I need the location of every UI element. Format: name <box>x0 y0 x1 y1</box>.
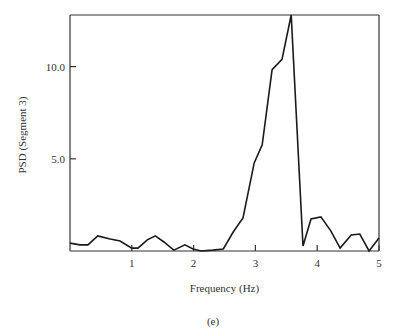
x-tick-label: 1 <box>129 257 135 269</box>
x-tick-label: 5 <box>376 257 382 269</box>
x-tick-label: 4 <box>314 257 320 269</box>
psd-chart: 12345 5.010.0 Frequency (Hz) PSD (Segmen… <box>0 0 398 336</box>
y-tick-label: 10.0 <box>46 61 66 73</box>
x-tick-label: 2 <box>191 257 197 269</box>
y-axis-label: PSD (Segment 3) <box>16 96 29 173</box>
figure-caption: (e) <box>207 315 220 328</box>
x-tick-label: 3 <box>253 257 259 269</box>
x-ticks: 12345 <box>129 245 382 269</box>
y-tick-label: 5.0 <box>51 153 65 165</box>
psd-series-line <box>70 15 379 251</box>
x-axis-label: Frequency (Hz) <box>190 282 260 295</box>
plot-frame <box>70 15 379 251</box>
y-ticks: 5.010.0 <box>46 61 76 165</box>
series-group <box>70 15 379 251</box>
